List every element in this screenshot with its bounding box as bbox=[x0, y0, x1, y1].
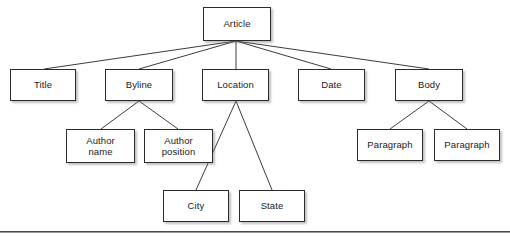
node-city[interactable]: City bbox=[163, 190, 229, 222]
node-paragraph-1[interactable]: Paragraph bbox=[357, 129, 423, 161]
edge-body-to-paragraph-2 bbox=[429, 101, 467, 129]
edge-byline-to-author-position bbox=[139, 101, 178, 129]
node-paragraph-2[interactable]: Paragraph bbox=[434, 129, 500, 161]
node-label-author-position: Author position bbox=[145, 135, 212, 158]
node-byline[interactable]: Byline bbox=[105, 69, 173, 101]
node-label-date: Date bbox=[299, 79, 364, 91]
node-author-name[interactable]: Author name bbox=[66, 129, 135, 163]
node-label-paragraph-2: Paragraph bbox=[435, 139, 499, 151]
node-label-author-name: Author name bbox=[67, 135, 134, 158]
node-title[interactable]: Title bbox=[10, 69, 76, 101]
node-label-location: Location bbox=[203, 79, 268, 91]
edge-location-to-state bbox=[236, 101, 272, 190]
node-location[interactable]: Location bbox=[202, 69, 269, 101]
article-structure-diagram: ArticleTitleBylineLocationDateBodyAuthor… bbox=[0, 0, 510, 237]
node-label-title: Title bbox=[11, 79, 75, 91]
node-article[interactable]: Article bbox=[203, 7, 271, 41]
baseline-rule bbox=[0, 231, 510, 233]
node-label-paragraph-1: Paragraph bbox=[358, 139, 422, 151]
node-label-state: State bbox=[240, 200, 304, 212]
edge-body-to-paragraph-1 bbox=[390, 101, 429, 129]
node-label-city: City bbox=[164, 200, 228, 212]
edge-article-to-date bbox=[236, 41, 331, 69]
edge-article-to-byline bbox=[139, 41, 236, 69]
node-label-byline: Byline bbox=[106, 79, 172, 91]
node-label-article: Article bbox=[204, 18, 270, 30]
node-author-position[interactable]: Author position bbox=[144, 129, 213, 163]
node-date[interactable]: Date bbox=[298, 69, 365, 101]
edge-article-to-title bbox=[44, 41, 236, 69]
node-body[interactable]: Body bbox=[395, 69, 463, 101]
node-label-body: Body bbox=[396, 79, 462, 91]
edge-article-to-body bbox=[236, 41, 429, 69]
node-state[interactable]: State bbox=[239, 190, 305, 222]
edge-byline-to-author-name bbox=[101, 101, 139, 129]
